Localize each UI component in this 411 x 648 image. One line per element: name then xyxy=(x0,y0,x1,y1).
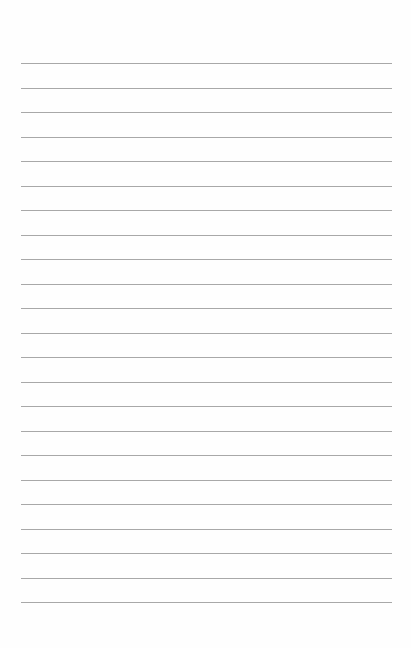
ruled-line xyxy=(21,480,392,481)
ruled-line xyxy=(21,529,392,530)
ruled-line xyxy=(21,63,392,64)
ruled-line xyxy=(21,308,392,309)
ruled-line xyxy=(21,406,392,407)
ruled-line xyxy=(21,431,392,432)
ruled-line xyxy=(21,578,392,579)
ruled-line xyxy=(21,602,392,603)
ruled-line xyxy=(21,259,392,260)
ruled-line xyxy=(21,161,392,162)
ruled-line xyxy=(21,382,392,383)
ruled-line xyxy=(21,504,392,505)
ruled-line xyxy=(21,553,392,554)
ruled-line xyxy=(21,210,392,211)
ruled-line xyxy=(21,455,392,456)
ruled-line xyxy=(21,186,392,187)
ruled-line xyxy=(21,357,392,358)
ruled-line xyxy=(21,333,392,334)
ruled-line xyxy=(21,88,392,89)
ruled-line xyxy=(21,112,392,113)
ruled-line xyxy=(21,137,392,138)
lined-page xyxy=(0,0,411,648)
ruled-line xyxy=(21,284,392,285)
ruled-line xyxy=(21,235,392,236)
